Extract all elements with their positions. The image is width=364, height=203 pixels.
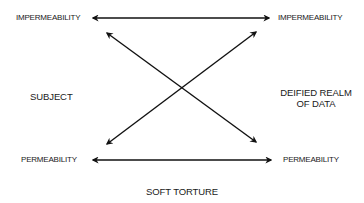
- label-bottom-left-permeability: PERMEABILITY: [21, 155, 77, 165]
- label-top-right-impermeability: IMPERMEABILITY: [278, 13, 342, 23]
- label-deified-realm-of-data: DEIFIED REALM OF DATA: [276, 87, 356, 109]
- label-bottom-right-permeability: PERMEABILITY: [283, 155, 339, 165]
- label-soft-torture: SOFT TORTURE: [146, 186, 218, 197]
- label-top-left-impermeability: IMPERMEABILITY: [16, 13, 80, 23]
- label-deified-realm-line2: OF DATA: [276, 98, 356, 109]
- label-subject: SUBJECT: [30, 91, 73, 102]
- label-deified-realm-line1: DEIFIED REALM: [276, 87, 356, 98]
